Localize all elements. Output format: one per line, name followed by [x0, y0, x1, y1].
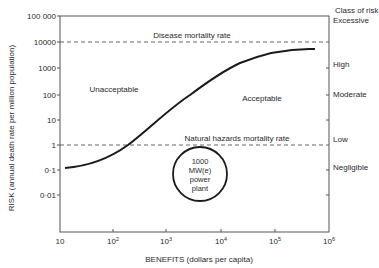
- x-tick-label: 106: [323, 236, 335, 246]
- y-tick-label: 10: [47, 116, 56, 125]
- y-tick-label: 0·1: [44, 166, 56, 175]
- x-tick-label: 102: [107, 236, 119, 246]
- acceptable-label: Acceptable: [242, 94, 282, 103]
- x-tick-label: 104: [215, 236, 227, 246]
- class-moderate: Moderate: [333, 90, 367, 99]
- natural-hazards-label: Natural hazards mortality rate: [185, 134, 290, 143]
- unacceptable-label: Unacceptable: [90, 85, 139, 94]
- y-tick-label: 1000: [38, 64, 56, 73]
- y-tick-label: 1: [52, 141, 57, 150]
- svg-text:MW(e): MW(e): [189, 166, 212, 175]
- class-high: High: [333, 60, 349, 69]
- class-excessive: Excessive: [333, 16, 370, 25]
- x-tick-label: 105: [269, 236, 281, 246]
- risk-benefit-chart: 100 000 10000 1000 100 10 1 0·1 0·01 10 …: [0, 0, 379, 268]
- class-negligible: Negligible: [333, 163, 369, 172]
- svg-text:power: power: [190, 175, 211, 184]
- class-low: Low: [333, 135, 348, 144]
- svg-text:1000: 1000: [192, 157, 209, 166]
- y-tick-labels: 100 000 10000 1000 100 10 1 0·1 0·01: [27, 12, 56, 200]
- x-tick-label: 10: [56, 237, 65, 246]
- class-of-risk-title: Class of risk: [335, 6, 379, 15]
- disease-mortality-label: Disease mortality rate: [153, 31, 231, 40]
- x-tick-label: 103: [160, 236, 172, 246]
- y-axis-title: RISK (annual death rate per million popu…: [7, 45, 16, 212]
- y-tick-label: 100: [43, 91, 57, 100]
- risk-classes: Excessive High Moderate Low Negligible: [333, 16, 370, 172]
- y-tick-label: 100 000: [27, 12, 56, 21]
- svg-text:plant: plant: [192, 184, 209, 193]
- x-tick-labels: 10 102 103 104 105 106: [56, 236, 335, 246]
- x-axis-title: BENEFITS (dollars per capita): [145, 255, 253, 264]
- y-tick-label: 0·01: [40, 191, 57, 200]
- y-tick-label: 10000: [34, 38, 57, 47]
